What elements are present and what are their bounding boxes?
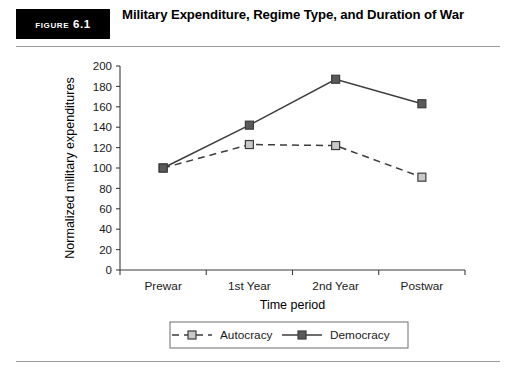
y-tick-label: 0 xyxy=(106,264,112,276)
legend-marker-autocracy xyxy=(188,331,196,339)
series-line-democracy xyxy=(163,79,422,168)
y-tick-label: 120 xyxy=(93,142,112,154)
y-tick-label: 100 xyxy=(93,162,112,174)
header-divider xyxy=(16,46,500,47)
figure-number-label: Figure 6.1 xyxy=(35,18,90,30)
y-tick-label: 40 xyxy=(99,223,112,235)
y-tick-label: 80 xyxy=(99,183,112,195)
x-tick-label: Prewar xyxy=(144,279,181,293)
figure-title: Military Expenditure, Regime Type, and D… xyxy=(122,6,494,23)
data-point-autocracy-3 xyxy=(418,173,426,181)
legend-marker-democracy xyxy=(298,331,306,339)
figure-number-badge: Figure 6.1 xyxy=(16,9,110,39)
x-axis-title: Time period xyxy=(260,298,326,312)
figure-header: Figure 6.1 Military Expenditure, Regime … xyxy=(0,0,508,48)
data-point-democracy-1 xyxy=(245,121,253,129)
y-tick-label: 180 xyxy=(93,81,112,93)
chart-container: 020406080100120140160180200Normalized mi… xyxy=(0,50,508,360)
y-tick-label: 20 xyxy=(99,244,112,256)
data-point-democracy-2 xyxy=(332,75,340,83)
data-point-democracy-3 xyxy=(418,100,426,108)
data-point-autocracy-2 xyxy=(332,142,340,150)
y-tick-label: 60 xyxy=(99,203,112,215)
line-chart: 020406080100120140160180200Normalized mi… xyxy=(0,50,508,360)
x-tick-label: 2nd Year xyxy=(312,279,359,293)
y-axis-title: Normalized military expenditures xyxy=(63,77,77,258)
legend-label-democracy: Democracy xyxy=(330,328,390,342)
footer-divider xyxy=(16,361,500,362)
y-tick-label: 160 xyxy=(93,101,112,113)
legend-label-autocracy: Autocracy xyxy=(220,328,273,342)
data-point-autocracy-1 xyxy=(245,141,253,149)
x-tick-label: 1st Year xyxy=(228,279,271,293)
x-tick-label: Postwar xyxy=(401,279,444,293)
y-tick-label: 200 xyxy=(93,60,112,72)
y-tick-label: 140 xyxy=(93,121,112,133)
data-point-democracy-0 xyxy=(159,164,167,172)
